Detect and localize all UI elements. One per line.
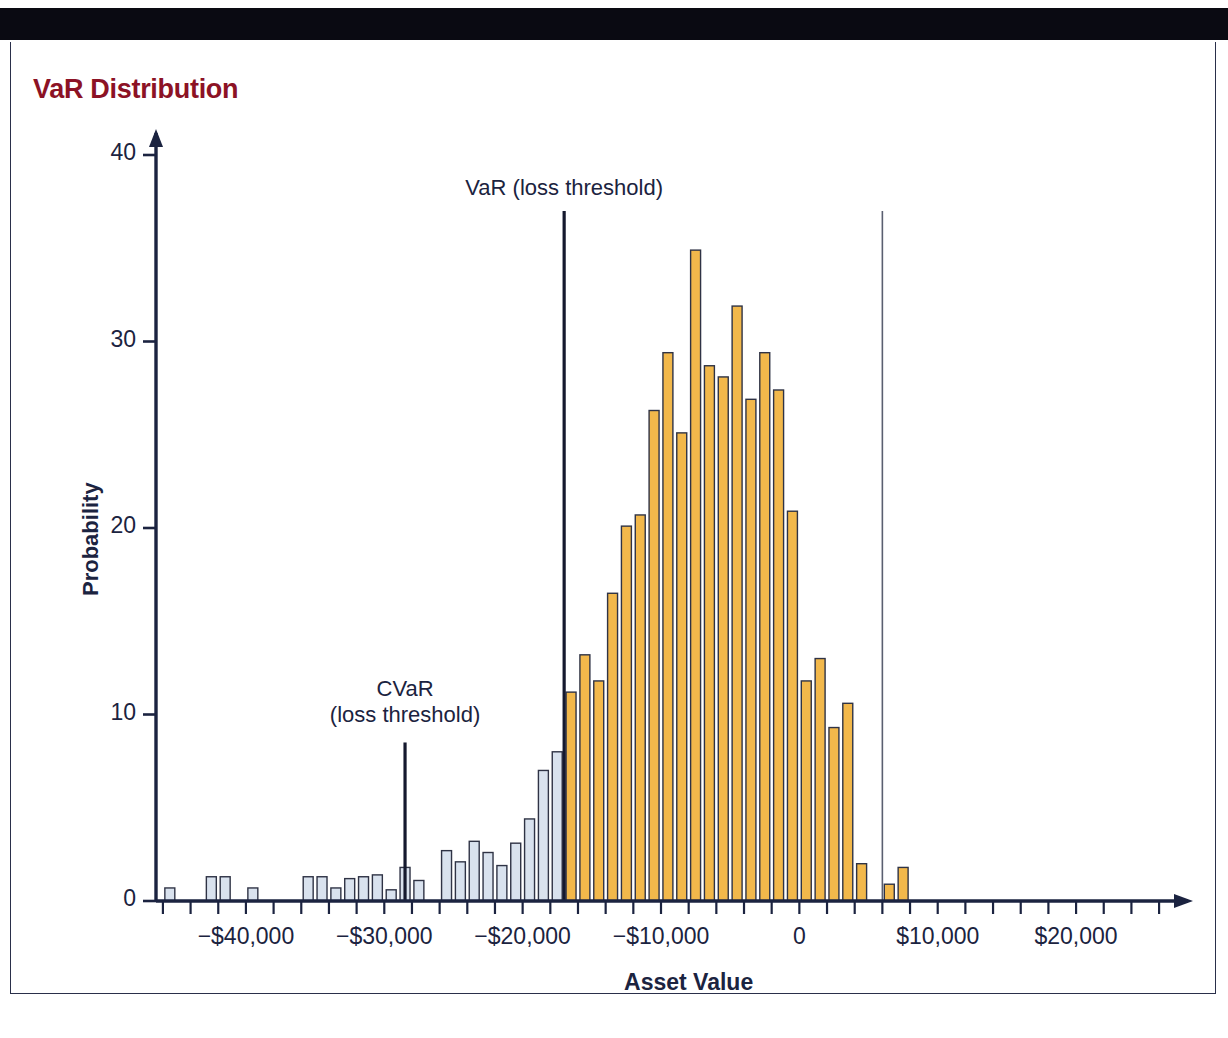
var-distribution-chart (0, 0, 1228, 1038)
histogram-bar (884, 884, 894, 901)
histogram-bar (317, 877, 327, 901)
histogram-bar (511, 843, 521, 901)
histogram-bar (497, 866, 507, 901)
histogram-bar (165, 888, 175, 901)
y-axis-tick-label: 10 (0, 699, 136, 726)
histogram-bar (732, 306, 742, 901)
y-axis-tick-label: 0 (0, 885, 136, 912)
histogram-bar (718, 377, 728, 901)
histogram-bar (372, 875, 382, 901)
y-axis-tick-label: 40 (0, 139, 136, 166)
histogram-bar (677, 433, 687, 901)
histogram-bar (843, 703, 853, 901)
histogram-bar (206, 877, 216, 901)
figure-page: VaR Distribution 010203040−$40,000−$30,0… (0, 0, 1228, 1038)
cvar-threshold-label: CVaR(loss threshold) (245, 676, 565, 728)
histogram-bar (580, 655, 590, 901)
cvar-label-line-2: (loss threshold) (330, 702, 480, 727)
histogram-bar (857, 864, 867, 901)
histogram-bar (331, 888, 341, 901)
histogram-bar (442, 851, 452, 901)
histogram-bar (760, 353, 770, 901)
histogram-bar (621, 526, 631, 901)
histogram-bar (787, 511, 797, 901)
histogram-bar (704, 366, 714, 901)
histogram-bar (538, 770, 548, 901)
histogram-bar (345, 879, 355, 901)
histogram-bar (220, 877, 230, 901)
x-axis-title: Asset Value (599, 969, 779, 996)
histogram-bar (414, 880, 424, 901)
y-axis-tick-label: 20 (0, 512, 136, 539)
histogram-bar (566, 692, 576, 901)
histogram-bar (594, 681, 604, 901)
x-axis-arrow (1174, 894, 1193, 908)
histogram-bar (248, 888, 258, 901)
histogram-bar (303, 877, 313, 901)
histogram-bar (815, 659, 825, 901)
var-threshold-label: VaR (loss threshold) (404, 175, 724, 201)
histogram-bar (898, 867, 908, 901)
histogram-bar (829, 728, 839, 901)
histogram-bar (649, 411, 659, 902)
cvar-label-line-1: CVaR (377, 676, 434, 701)
histogram-bar (774, 390, 784, 901)
histogram-bar (801, 681, 811, 901)
histogram-bar (552, 752, 562, 901)
histogram-bar (746, 399, 756, 901)
x-axis-tick-label: $20,000 (986, 923, 1166, 950)
y-axis-title: Probability (78, 482, 104, 596)
histogram-bar (455, 862, 465, 901)
bars-layer (165, 250, 908, 901)
histogram-bar (483, 853, 493, 901)
y-axis-tick-label: 30 (0, 326, 136, 353)
histogram-bar (608, 593, 618, 901)
histogram-bar (635, 515, 645, 901)
histogram-bar (691, 250, 701, 901)
histogram-bar (525, 819, 535, 901)
histogram-bar (469, 841, 479, 901)
histogram-bar (663, 353, 673, 901)
y-axis-arrow (149, 129, 163, 147)
histogram-bar (359, 877, 369, 901)
